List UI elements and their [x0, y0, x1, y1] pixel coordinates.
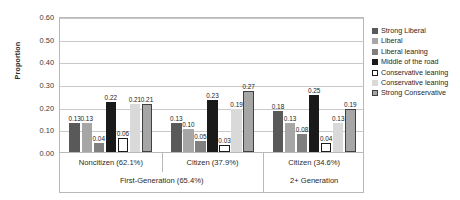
bar [94, 143, 104, 152]
legend-item: Strong Liberal [372, 26, 460, 35]
bar-value-label: 0.06 [117, 130, 129, 137]
bar-value-label: 0.18 [272, 103, 284, 110]
bar [118, 138, 128, 152]
legend-swatch-icon [372, 38, 378, 44]
bar [285, 123, 295, 152]
bar-value-label: 0.04 [320, 135, 332, 142]
bar-value-label: 0.13 [68, 115, 80, 122]
bar [321, 143, 331, 152]
legend-swatch-icon [372, 90, 378, 96]
legend-item: Conservative leaning [372, 68, 460, 77]
legend-label: Conservative leaning [381, 78, 448, 87]
category-label: Citizen (37.9%) [162, 155, 264, 171]
bar-group: 0.130.130.040.220.060.210.21 [60, 18, 162, 152]
bar-value-label: 0.23 [206, 92, 218, 99]
legend-label: Middle of the road [381, 57, 439, 66]
bar [195, 141, 205, 152]
bar [243, 91, 253, 152]
legend-swatch-icon [372, 49, 378, 55]
legend-label: Conservative leaning [381, 68, 448, 77]
bar [333, 123, 343, 152]
bar [183, 129, 193, 152]
bar-value-label: 0.21 [141, 96, 153, 103]
bar-value-label: 0.10 [182, 121, 194, 128]
bar [219, 145, 229, 152]
bar-value-label: 0.05 [194, 133, 206, 140]
bar [142, 104, 152, 152]
legend-item: Liberal [372, 36, 460, 45]
legend-item: Conservative leaning [372, 78, 460, 87]
category-label: Noncitizen (62.1%) [60, 155, 162, 171]
plot-area: 0.130.130.040.220.060.210.210.130.100.05… [59, 17, 364, 153]
bar [106, 102, 116, 152]
y-axis-tick-label: 0.10 [24, 126, 54, 135]
bar-value-label: 0.13 [284, 115, 296, 122]
bar-value-label: 0.19 [344, 101, 356, 108]
y-axis-tick-label: 0.40 [24, 58, 54, 67]
legend-label: Liberal [381, 36, 403, 45]
bar-group: 0.130.100.050.230.030.190.27 [162, 18, 264, 152]
bar-value-label: 0.19 [230, 101, 242, 108]
bar-value-label: 0.13 [332, 115, 344, 122]
legend-label: Strong Liberal [381, 26, 426, 35]
super-category-label: 2+ Generation [263, 173, 365, 189]
bar [345, 109, 355, 152]
legend-item: Liberal leaning [372, 47, 460, 56]
bar [171, 123, 181, 152]
legend-swatch-icon [372, 70, 378, 76]
y-axis-title: Proportion [13, 26, 22, 96]
bar [273, 111, 283, 152]
legend-swatch-icon [372, 28, 378, 34]
bar-value-label: 0.21 [129, 96, 141, 103]
y-axis-tick-label: 0.50 [24, 35, 54, 44]
bar-group: 0.180.130.080.250.040.130.19 [263, 18, 365, 152]
bar [297, 134, 307, 152]
legend-swatch-icon [372, 59, 378, 65]
bar-value-label: 0.25 [308, 87, 320, 94]
y-axis-tick-label: 0.00 [24, 149, 54, 158]
bar [82, 123, 92, 152]
category-axis: Noncitizen (62.1%)Citizen (37.9%)Citizen… [59, 153, 364, 193]
bar-chart: Proportion 0.000.100.200.300.400.500.60 … [0, 0, 460, 200]
legend-label: Liberal leaning [381, 47, 428, 56]
bar [69, 123, 79, 152]
bar-value-label: 0.04 [93, 135, 105, 142]
bar [130, 104, 140, 152]
bar-value-label: 0.08 [296, 126, 308, 133]
y-axis-tick-label: 0.60 [24, 13, 54, 22]
bar [309, 95, 319, 152]
category-label: Citizen (34.6%) [263, 155, 365, 171]
y-axis-tick-label: 0.20 [24, 103, 54, 112]
legend-label: Strong Conservative [381, 88, 446, 97]
chart-legend: Strong LiberalLiberalLiberal leaningMidd… [372, 26, 460, 99]
bar [231, 109, 241, 152]
bar-value-label: 0.22 [105, 94, 117, 101]
y-axis-tick-label: 0.30 [24, 81, 54, 90]
legend-item: Strong Conservative [372, 88, 460, 97]
legend-swatch-icon [372, 80, 378, 86]
bar-value-label: 0.03 [218, 137, 230, 144]
bar-value-label: 0.13 [170, 115, 182, 122]
legend-item: Middle of the road [372, 57, 460, 66]
super-category-label: First-Generation (65.4%) [60, 173, 263, 189]
bar [207, 100, 217, 152]
bar-value-label: 0.13 [80, 115, 92, 122]
bar-value-label: 0.27 [242, 83, 254, 90]
